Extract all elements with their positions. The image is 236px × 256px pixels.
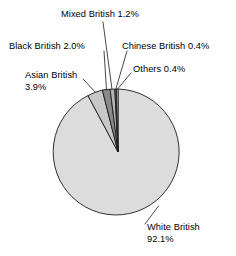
slice-label-mixed-british: Mixed British 1.2% bbox=[61, 9, 139, 21]
leader-line-asian-british bbox=[83, 79, 96, 92]
slice-label-white-british: White British 92.1% bbox=[147, 222, 200, 245]
pie-chart-figure: Mixed British 1.2% Black British 2.0% Ch… bbox=[0, 0, 236, 256]
slice-label-white-british-value: 92.1% bbox=[147, 234, 200, 246]
slice-label-white-british-name: White British bbox=[147, 222, 200, 234]
slice-label-asian-british-value: 3.9% bbox=[25, 82, 77, 94]
slice-label-others: Others 0.4% bbox=[133, 64, 185, 76]
slice-label-asian-british: Asian British 3.9% bbox=[25, 70, 77, 93]
slice-label-chinese-british: Chinese British 0.4% bbox=[122, 41, 209, 53]
leader-line-chinese-british bbox=[116, 51, 127, 89]
slice-label-asian-british-name: Asian British bbox=[25, 70, 77, 82]
pie-chart-canvas bbox=[0, 0, 236, 256]
leader-line-black-british bbox=[104, 51, 107, 90]
slice-label-black-british: Black British 2.0% bbox=[9, 41, 85, 53]
